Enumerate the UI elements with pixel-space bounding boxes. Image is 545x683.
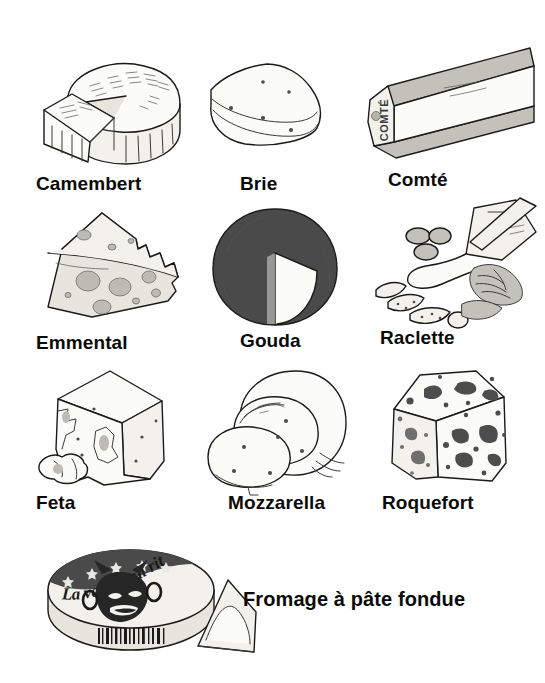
cheese-cell-camembert: Camembert	[30, 38, 190, 183]
cheese-label-camembert: Camembert	[36, 174, 141, 193]
svg-text:COMTÉ: COMTÉ	[378, 99, 390, 141]
roquefort-block-icon	[380, 365, 530, 510]
cheese-cell-emmental: Emmental	[32, 205, 197, 350]
cheese-cell-roquefort: Roquefort	[380, 365, 530, 510]
cheese-label-mozzarella: Mozzarella	[228, 493, 325, 512]
cheese-label-gouda: Gouda	[240, 331, 301, 350]
gouda-wheel-icon	[205, 203, 345, 348]
cheese-label-raclette: Raclette	[380, 328, 455, 347]
cheese-label-fromage-a-pate-fondue: Fromage à pâte fondue	[243, 589, 465, 609]
cheese-cell-feta: Feta	[32, 365, 197, 510]
cheese-cell-comte: COMTÉ Comté	[358, 42, 538, 182]
brie-wedge-icon	[205, 52, 345, 182]
cheese-cell-gouda: Gouda	[205, 203, 345, 348]
cheese-label-feta: Feta	[36, 493, 75, 512]
cheese-cell-mozzarella: Mozzarella	[200, 365, 360, 510]
raclette-scraper-icon	[370, 198, 540, 348]
cheese-label-brie: Brie	[240, 174, 277, 193]
comte-bar-icon: COMTÉ	[358, 42, 538, 182]
camembert-wheel-with-wedge-icon	[30, 38, 190, 183]
mozzarella-ball-slices-icon	[200, 365, 360, 510]
cheese-label-comte: Comté	[388, 170, 448, 189]
cheese-cell-raclette: Raclette	[370, 198, 540, 348]
cheese-label-roquefort: Roquefort	[382, 493, 474, 512]
cheese-cell-brie: Brie	[205, 52, 345, 182]
emmental-wedge-holes-icon	[32, 205, 197, 350]
cheese-chart-sheet: Camembert Brie	[0, 0, 545, 683]
feta-block-icon	[32, 365, 197, 510]
cheese-label-emmental: Emmental	[36, 333, 128, 352]
